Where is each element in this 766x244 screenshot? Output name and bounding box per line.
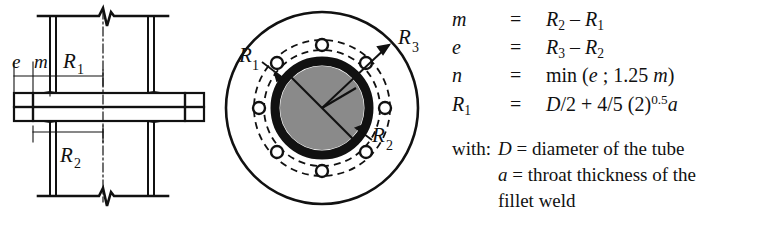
svg-text:2: 2	[386, 138, 393, 153]
equation-equals: =	[510, 64, 546, 87]
equation-symbol: m	[452, 8, 510, 31]
legend-equals: =	[516, 138, 527, 159]
svg-text:R: R	[238, 43, 252, 67]
plan-circular-view	[226, 12, 418, 204]
equation-row-e: e = R3 – R2	[452, 36, 766, 64]
equation-expression: R2 – R1	[546, 8, 766, 34]
legend-description: diameter of the tube	[532, 138, 684, 159]
legend-line-continued: fillet weld	[452, 188, 766, 214]
equation-symbol: R1	[452, 93, 510, 119]
legend-lead: with:	[452, 136, 498, 162]
equation-row-R1: R1 = D/2 + 4/5 (2)0.5a	[452, 92, 766, 120]
bolt-head-left	[14, 93, 33, 121]
bolt-hole	[316, 39, 328, 51]
side-view-labels: e m R 1 R 2	[12, 49, 84, 171]
label-e: e	[12, 51, 20, 72]
side-cross-section-view	[14, 8, 204, 206]
bolt-hole	[360, 146, 372, 158]
bolt-hole	[253, 102, 265, 114]
bolt-nut-right	[185, 93, 204, 121]
equation-equals: =	[510, 93, 546, 116]
equation-row-n: n = min (e ; 1.25 m)	[452, 64, 766, 92]
dimension-R2	[33, 126, 103, 142]
bolt-hole	[271, 57, 283, 69]
equation-expression: R3 – R2	[546, 36, 766, 62]
equation-equals: =	[510, 8, 546, 31]
legend-description: fillet weld	[498, 188, 766, 214]
label-m: m	[34, 51, 48, 72]
svg-text:R: R	[62, 49, 76, 73]
label-R1-side: R 1	[62, 49, 84, 77]
equation-row-m: m = R2 – R1	[452, 8, 766, 36]
legend-equals: =	[512, 164, 523, 185]
svg-text:1: 1	[252, 58, 259, 73]
legend-text: a = throat thickness of the	[498, 162, 766, 188]
legend-indent	[452, 162, 498, 188]
label-R1-plan: R 1	[238, 43, 259, 73]
svg-text:R: R	[371, 123, 385, 147]
svg-text:1: 1	[77, 62, 84, 77]
bolt-hole	[316, 165, 328, 177]
tube-upper-right-wall	[148, 16, 154, 92]
legend-block: with: D = diameter of the tube a = throa…	[452, 136, 766, 214]
svg-text:2: 2	[74, 156, 81, 171]
equation-expression: D/2 + 4/5 (2)0.5a	[546, 92, 766, 116]
tube-upper-left-wall	[50, 16, 56, 92]
label-R2-plan: R 2	[371, 123, 393, 153]
legend-symbol: a	[498, 164, 508, 185]
legend-line-D: with: D = diameter of the tube	[452, 136, 766, 162]
equation-equals: =	[510, 36, 546, 59]
bolt-hole	[271, 146, 283, 158]
equation-symbol: e	[452, 36, 510, 59]
legend-symbol: D	[498, 138, 512, 159]
svg-text:R: R	[397, 25, 411, 49]
svg-text:3: 3	[412, 40, 419, 55]
tube-lower-left-wall	[50, 122, 56, 196]
bolt-hole	[379, 102, 391, 114]
legend-indent	[452, 188, 498, 214]
svg-text:R: R	[59, 143, 73, 167]
legend-text: D = diameter of the tube	[498, 136, 766, 162]
formula-block: m = R2 – R1 e = R3 – R2 n = min (e ; 1.2…	[452, 8, 766, 244]
equation-symbol: n	[452, 64, 510, 87]
legend-line-a: a = throat thickness of the	[452, 162, 766, 188]
legend-description: throat thickness of the	[528, 164, 696, 185]
equation-expression: min (e ; 1.25 m)	[546, 64, 766, 87]
flange-plates	[33, 93, 185, 121]
label-R2-side: R 2	[59, 143, 81, 171]
tube-lower-right-wall	[148, 122, 154, 196]
